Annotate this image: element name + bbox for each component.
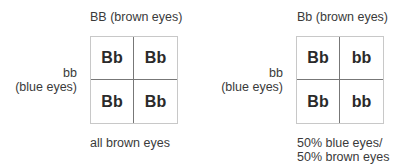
grid-cell: bb — [340, 80, 383, 123]
grid-cell: Bb — [297, 37, 340, 80]
side-parent-phenotype: (blue eyes) — [10, 80, 77, 94]
result-label-line1: 50% blue eyes/ — [297, 136, 382, 150]
punnett-grid: Bb Bb Bb Bb — [90, 36, 178, 124]
grid-cell: Bb — [134, 80, 177, 123]
result-label: all brown eyes — [90, 136, 170, 150]
grid-cell: Bb — [91, 37, 134, 80]
punnett-grid: Bb bb Bb bb — [296, 36, 384, 124]
top-parent-label: BB (brown eyes) — [90, 10, 182, 24]
grid-cell: Bb — [134, 37, 177, 80]
grid-cell: Bb — [91, 80, 134, 123]
top-parent-label: Bb (brown eyes) — [297, 10, 388, 24]
side-parent-label: bb (blue eyes) — [10, 66, 77, 94]
result-label-line2: 50% brown eyes — [297, 150, 389, 164]
side-parent-label: bb (blue eyes) — [216, 66, 283, 94]
grid-cell: Bb — [297, 80, 340, 123]
side-parent-phenotype: (blue eyes) — [216, 80, 283, 94]
grid-cell: bb — [340, 37, 383, 80]
side-parent-genotype: bb — [216, 66, 283, 80]
side-parent-genotype: bb — [10, 66, 77, 80]
